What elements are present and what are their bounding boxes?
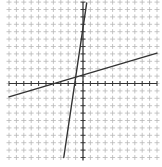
- coordinate-graph: [0, 0, 162, 167]
